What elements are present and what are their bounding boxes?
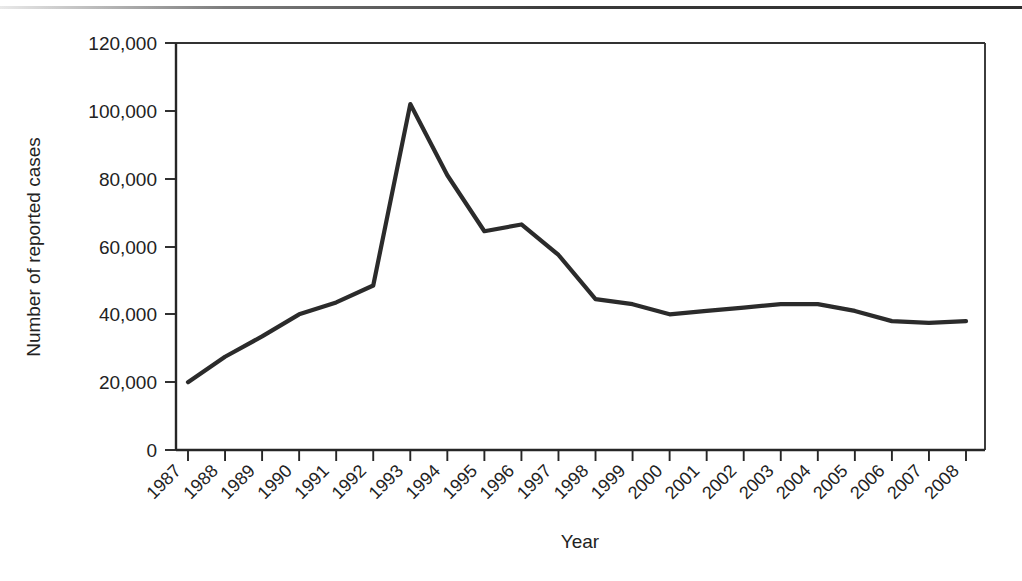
- x-axis-title: Year: [561, 531, 600, 552]
- y-axis-title: Number of reported cases: [23, 137, 44, 357]
- x-tick-label-1997: 1997: [513, 461, 555, 503]
- x-tick-label-2003: 2003: [735, 461, 777, 503]
- x-tick-label-2005: 2005: [809, 461, 851, 503]
- x-tick-label-1990: 1990: [254, 461, 296, 503]
- x-tick-label-1988: 1988: [179, 461, 221, 503]
- x-tick-label-1993: 1993: [365, 461, 407, 503]
- x-tick-label-2006: 2006: [846, 461, 888, 503]
- x-tick-label-1991: 1991: [291, 461, 333, 503]
- y-tick-label-0: 0: [146, 440, 157, 461]
- x-tick-label-2007: 2007: [883, 461, 925, 503]
- y-tick-label-40000: 40,000: [99, 304, 157, 325]
- x-tick-label-2001: 2001: [661, 461, 703, 503]
- x-tick-label-1999: 1999: [587, 461, 629, 503]
- y-tick-label-60000: 60,000: [99, 237, 157, 258]
- y-tick-label-20000: 20,000: [99, 372, 157, 393]
- x-tick-label-2002: 2002: [698, 461, 740, 503]
- y-tick-label-120000: 120,000: [88, 33, 157, 54]
- plot-svg: 0 20,000 40,000 60,000 80,000 100,000 12…: [0, 0, 1022, 581]
- x-tick-label-1989: 1989: [216, 461, 258, 503]
- x-tick-label-1995: 1995: [439, 461, 481, 503]
- x-tick-label-1987: 1987: [142, 461, 184, 503]
- x-tick-label-2004: 2004: [772, 461, 814, 503]
- x-tick-label-1992: 1992: [328, 461, 370, 503]
- x-tick-label-1996: 1996: [476, 461, 518, 503]
- x-axis-ticks: [188, 450, 966, 461]
- x-tick-label-1998: 1998: [550, 461, 592, 503]
- plot-frame: [176, 43, 985, 450]
- line-chart: 0 20,000 40,000 60,000 80,000 100,000 12…: [0, 0, 1022, 581]
- data-series-group: [188, 104, 966, 382]
- data-series-line: [188, 104, 966, 382]
- chart-figure: 0 20,000 40,000 60,000 80,000 100,000 12…: [0, 0, 1022, 581]
- y-tick-label-100000: 100,000: [88, 101, 157, 122]
- x-axis-tick-labels: 1987198819891990199119921993199419951996…: [142, 461, 962, 503]
- x-tick-label-1994: 1994: [402, 461, 444, 503]
- x-tick-label-2008: 2008: [920, 461, 962, 503]
- y-tick-label-80000: 80,000: [99, 169, 157, 190]
- x-tick-label-2000: 2000: [624, 461, 666, 503]
- y-axis-ticks: 0 20,000 40,000 60,000 80,000 100,000 12…: [88, 33, 176, 461]
